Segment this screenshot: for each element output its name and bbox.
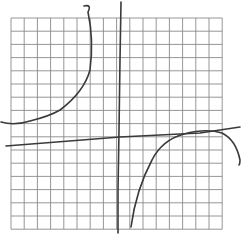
right-branch-curve	[131, 131, 240, 227]
grid	[11, 18, 222, 229]
vertical-line	[118, 2, 121, 233]
pen-strokes	[1, 2, 240, 233]
left-branch-curve	[1, 6, 92, 124]
graph-paper	[0, 0, 242, 235]
